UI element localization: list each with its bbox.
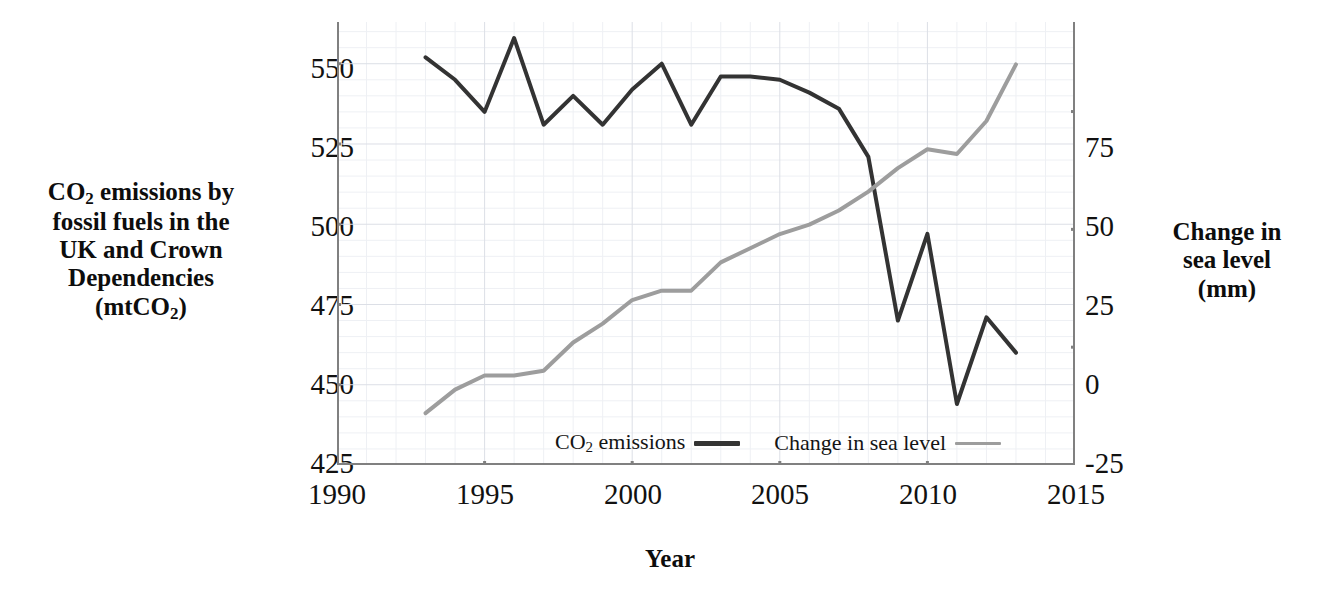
x-tick-2005: 2005 bbox=[725, 478, 835, 511]
chart-figure: CO2 emissions by fossil fuels in the UK … bbox=[0, 0, 1330, 604]
chart-plot-svg bbox=[337, 22, 1075, 465]
legend-label-sea-level: Change in sea level bbox=[774, 430, 946, 456]
right-tick--25: -25 bbox=[1085, 447, 1171, 480]
plot-area bbox=[337, 22, 1075, 465]
x-tick-1990: 1990 bbox=[282, 478, 392, 511]
legend-item-co2: CO2 emissions bbox=[555, 429, 740, 456]
left-axis-title-line-2: fossil fuels in the bbox=[18, 208, 264, 236]
x-axis-title: Year bbox=[560, 545, 780, 573]
axis-lines bbox=[337, 22, 1075, 465]
right-axis-title-line-2: sea level bbox=[1128, 246, 1326, 274]
gridlines-major bbox=[337, 22, 1075, 465]
gridlines-minor bbox=[337, 22, 1075, 465]
right-tick-75: 75 bbox=[1085, 131, 1171, 164]
legend-swatch-co2-line bbox=[694, 441, 740, 446]
x-tick-2010: 2010 bbox=[873, 478, 983, 511]
right-tick-0: 0 bbox=[1085, 368, 1171, 401]
legend-swatch-sea-level-line bbox=[955, 442, 1001, 445]
x-tick-1995: 1995 bbox=[430, 478, 540, 511]
left-axis-title-line-4: Dependencies bbox=[18, 264, 264, 292]
legend-item-sea-level: Change in sea level bbox=[774, 430, 1001, 456]
left-axis-title: CO2 emissions by fossil fuels in the UK … bbox=[18, 178, 264, 323]
left-axis-title-line-3: UK and Crown bbox=[18, 236, 264, 264]
legend-label-co2: CO2 emissions bbox=[555, 429, 685, 456]
chart-legend: CO2 emissions Change in sea level bbox=[555, 430, 1001, 456]
left-axis-title-line-5: (mtCO2) bbox=[18, 293, 264, 323]
left-axis-title-line-1: CO2 emissions by bbox=[18, 178, 264, 208]
axis-ticks bbox=[337, 32, 1075, 465]
right-tick-25: 25 bbox=[1085, 289, 1171, 322]
right-tick-50: 50 bbox=[1085, 210, 1171, 243]
x-tick-2000: 2000 bbox=[578, 478, 688, 511]
x-tick-2015: 2015 bbox=[1021, 478, 1131, 511]
